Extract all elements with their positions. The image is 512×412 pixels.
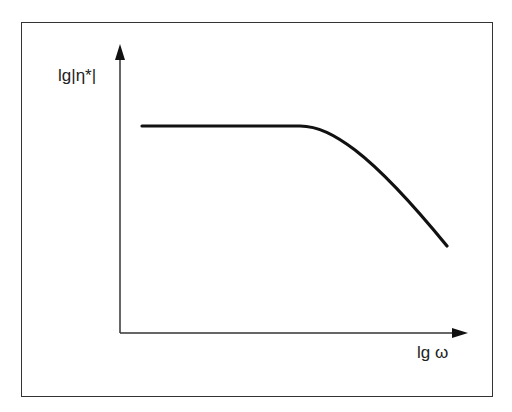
y-axis-label: lg|η*| xyxy=(58,66,96,86)
x-axis-arrow-icon xyxy=(452,328,468,338)
viscosity-curve xyxy=(142,126,447,246)
x-axis-label: lg ω xyxy=(417,343,448,363)
y-axis-arrow-icon xyxy=(115,44,125,60)
